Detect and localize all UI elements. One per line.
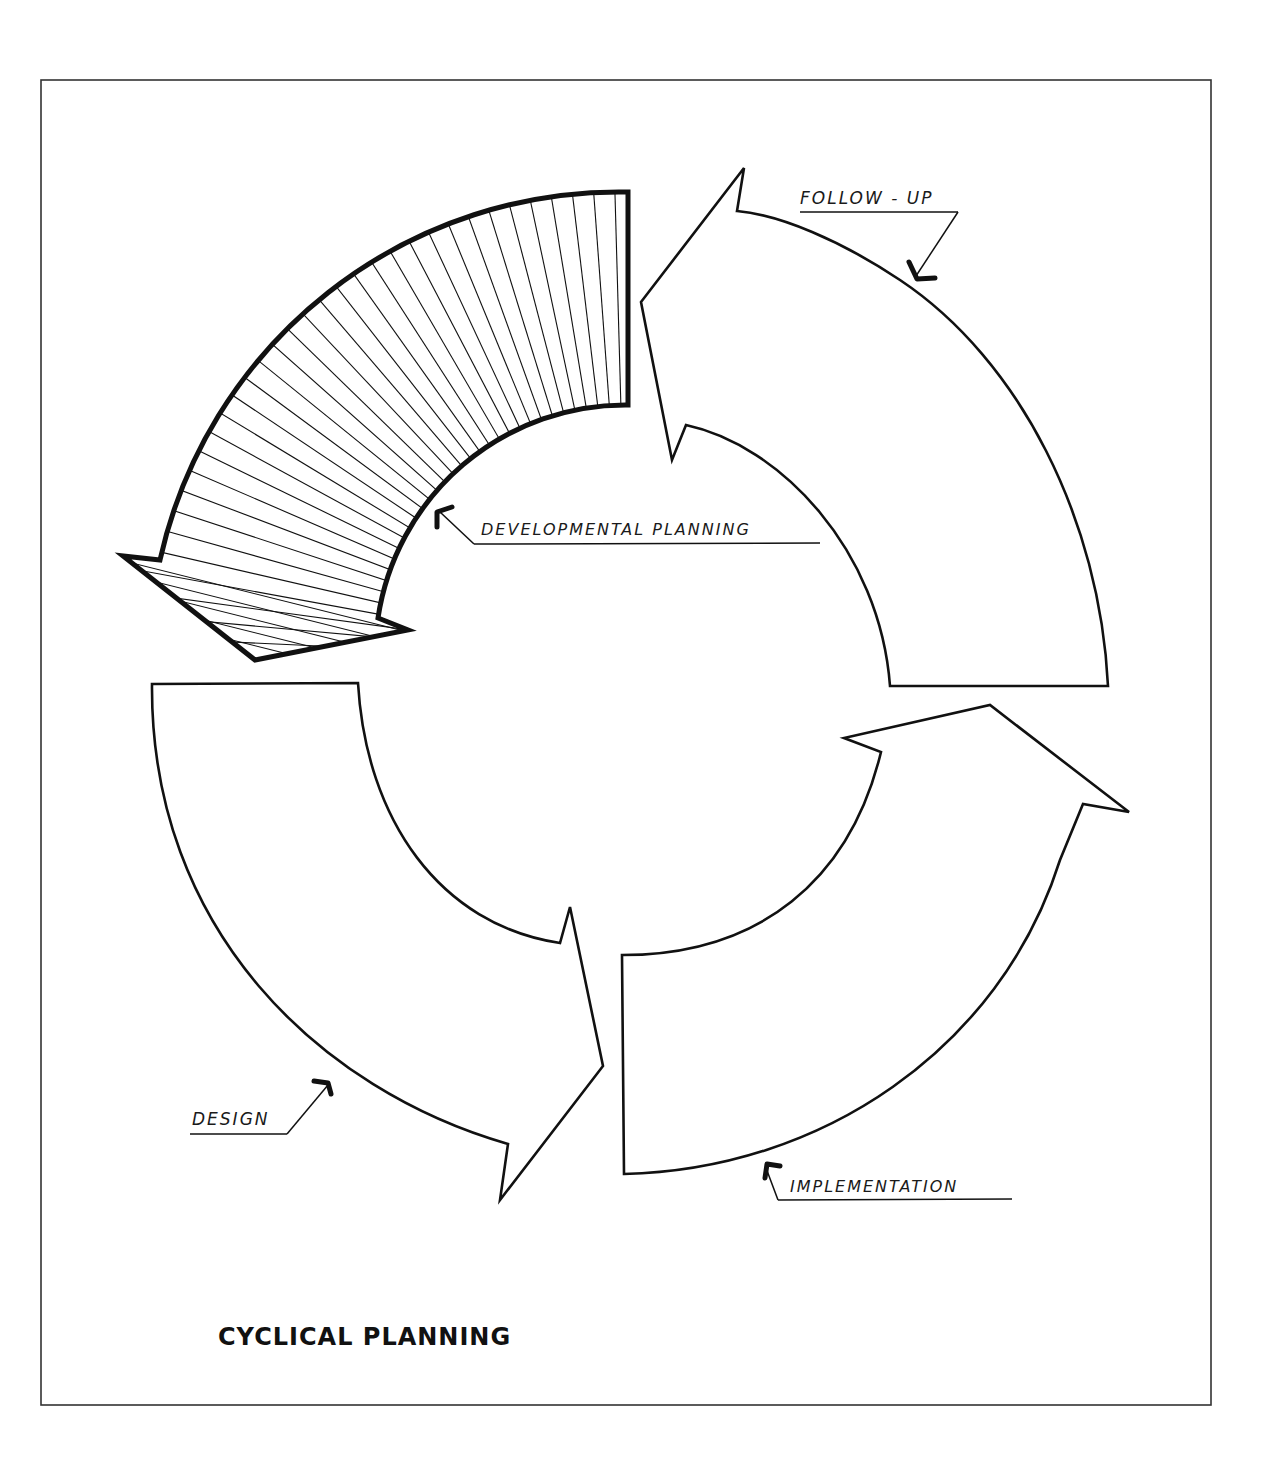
cyclical-planning-diagram: FOLLOW - UP DEVELOPMENTAL PLANNING DESIG… bbox=[0, 0, 1283, 1463]
design-label: DESIGN bbox=[192, 1109, 270, 1129]
pointer-arrow-icon bbox=[765, 1164, 780, 1178]
arrow-implementation bbox=[622, 705, 1129, 1174]
arrow-follow-up bbox=[641, 168, 1108, 686]
label-developmental-planning: DEVELOPMENTAL PLANNING bbox=[437, 507, 820, 544]
implementation-label: IMPLEMENTATION bbox=[790, 1177, 958, 1196]
pointer-arrow-icon bbox=[909, 262, 935, 279]
developmental-planning-label: DEVELOPMENTAL PLANNING bbox=[481, 520, 751, 539]
label-design: DESIGN bbox=[190, 1081, 331, 1134]
diagram-title: CYCLICAL PLANNING bbox=[218, 1323, 511, 1351]
arrow-developmental-planning bbox=[68, 100, 638, 726]
hatching-pattern bbox=[68, 100, 638, 726]
label-implementation: IMPLEMENTATION bbox=[765, 1164, 1012, 1200]
follow-up-label: FOLLOW - UP bbox=[800, 188, 933, 208]
